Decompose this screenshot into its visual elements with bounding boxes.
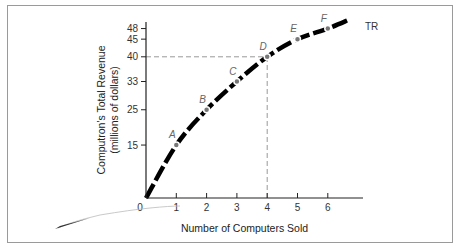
point-label-b: B <box>199 94 206 105</box>
point-e <box>295 36 301 42</box>
point-label-f: F <box>321 13 328 24</box>
x-tick-label: 2 <box>204 202 210 213</box>
svg-text:Computron's Total Revenue: Computron's Total Revenue <box>95 45 107 174</box>
y-tick-label: 15 <box>127 140 139 151</box>
axes: 0123456152533404548 <box>127 22 363 213</box>
x-tick-label: 4 <box>264 202 270 213</box>
tr-line <box>146 20 349 198</box>
x-axis-title: Number of Computers Sold <box>181 222 308 234</box>
curve-label-tr: TR <box>365 21 378 32</box>
x-tick-label: 5 <box>295 202 301 213</box>
x-tick-label: 0 <box>137 202 143 213</box>
tr-curve <box>146 20 349 198</box>
reference-guides <box>146 57 267 198</box>
x-tick-label: 3 <box>234 202 240 213</box>
point-d <box>264 54 270 60</box>
x-tick-label: 1 <box>174 202 180 213</box>
point-label-a: A <box>168 129 176 140</box>
y-tick-label: 25 <box>127 104 139 115</box>
y-tick-label: 48 <box>127 23 139 34</box>
point-b <box>204 107 210 113</box>
x-tick-label: 6 <box>325 202 331 213</box>
point-f <box>325 26 331 32</box>
y-tick-label: 33 <box>127 76 139 87</box>
point-a <box>173 142 179 148</box>
y-tick-label: 45 <box>127 34 139 45</box>
point-label-d: D <box>260 41 267 52</box>
svg-text:(millions of dollars): (millions of dollars) <box>108 66 120 154</box>
point-c <box>234 79 240 85</box>
point-label-c: C <box>229 66 237 77</box>
point-label-e: E <box>290 23 297 34</box>
y-tick-label: 40 <box>127 51 139 62</box>
y-axis-title: Computron's Total Revenue(millions of do… <box>95 45 120 174</box>
total-revenue-chart: 0123456152533404548 ABCDEF Number of Com… <box>0 0 461 250</box>
scan-artifact-streak <box>58 206 180 228</box>
